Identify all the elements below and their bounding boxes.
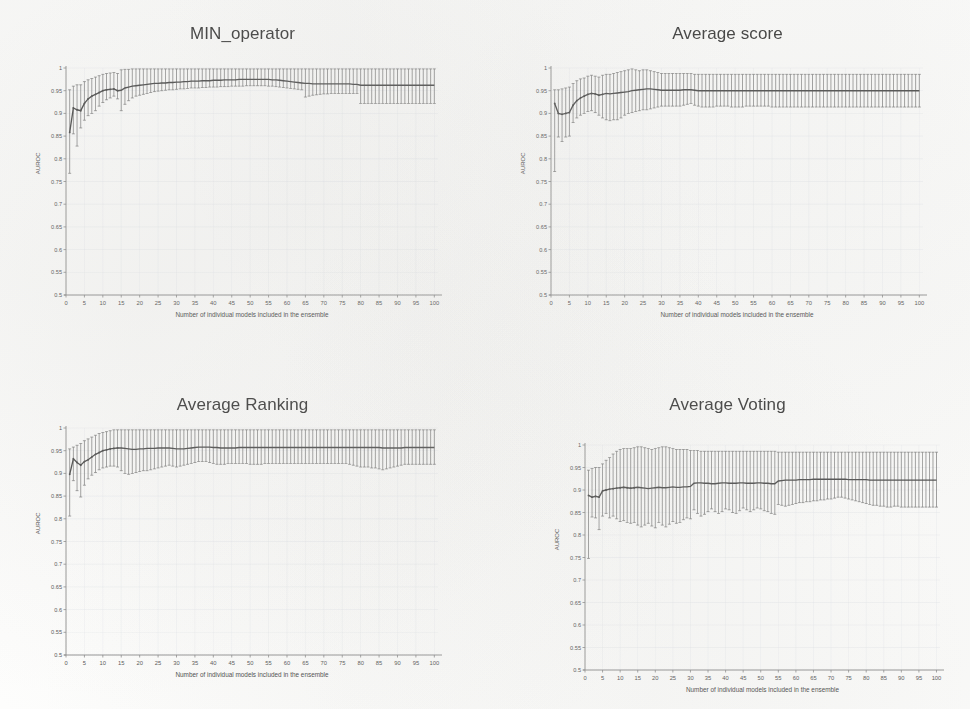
svg-text:25: 25 [670, 675, 676, 681]
svg-text:90: 90 [879, 300, 885, 306]
svg-text:15: 15 [118, 300, 124, 306]
svg-text:0.55: 0.55 [536, 269, 547, 275]
svg-text:85: 85 [881, 675, 887, 681]
svg-text:0.6: 0.6 [539, 247, 547, 253]
svg-text:100: 100 [914, 300, 924, 306]
svg-text:40: 40 [210, 300, 216, 306]
chart-panel-average_voting: Average Voting0.50.550.60.650.70.750.80.… [485, 355, 970, 709]
mean-markers [554, 93, 604, 116]
svg-text:45: 45 [229, 660, 235, 666]
svg-text:0.85: 0.85 [536, 133, 547, 139]
svg-text:5: 5 [568, 300, 571, 306]
svg-text:15: 15 [634, 675, 640, 681]
mean-line [70, 79, 435, 132]
chart-panel-min_operator: MIN_operator0.50.550.60.650.70.750.80.85… [0, 0, 485, 355]
svg-text:40: 40 [210, 660, 216, 666]
svg-text:85: 85 [376, 660, 382, 666]
svg-text:30: 30 [658, 300, 664, 306]
svg-text:0.8: 0.8 [539, 156, 547, 162]
y-axis-title: AUROC [520, 152, 526, 174]
svg-text:80: 80 [842, 300, 848, 306]
svg-text:55: 55 [750, 300, 756, 306]
svg-text:0.9: 0.9 [54, 470, 62, 476]
svg-text:0.95: 0.95 [570, 465, 581, 471]
svg-text:35: 35 [677, 300, 683, 306]
svg-text:5: 5 [601, 675, 604, 681]
svg-text:35: 35 [705, 675, 711, 681]
mean-line [70, 447, 435, 474]
error-bars [587, 447, 938, 559]
svg-text:30: 30 [173, 660, 179, 666]
svg-text:55: 55 [265, 660, 271, 666]
svg-text:10: 10 [585, 300, 591, 306]
svg-text:20: 20 [621, 300, 627, 306]
svg-text:100: 100 [429, 660, 439, 666]
x-tick-labels: 0510152025303540455055606570758085909510… [64, 655, 439, 666]
x-axis-title: Number of individual models included in … [175, 311, 329, 318]
svg-text:0.75: 0.75 [570, 555, 581, 561]
x-tick-labels: 0510152025303540455055606570758085909510… [583, 670, 941, 681]
svg-text:25: 25 [155, 300, 161, 306]
svg-text:1: 1 [544, 65, 547, 71]
svg-text:0.7: 0.7 [54, 201, 62, 207]
svg-text:85: 85 [376, 300, 382, 306]
mean-line [555, 89, 920, 114]
svg-text:80: 80 [863, 675, 869, 681]
error-bars [553, 69, 921, 172]
svg-text:0.95: 0.95 [536, 88, 547, 94]
y-axis-title: AUROC [554, 528, 560, 550]
grid-lines [585, 445, 940, 670]
svg-text:20: 20 [136, 300, 142, 306]
svg-text:0.6: 0.6 [54, 607, 62, 613]
svg-text:0.75: 0.75 [536, 179, 547, 185]
svg-text:1: 1 [59, 425, 62, 431]
svg-text:10: 10 [617, 675, 623, 681]
svg-text:0.85: 0.85 [570, 510, 581, 516]
svg-text:35: 35 [192, 660, 198, 666]
grid-lines [551, 68, 923, 295]
svg-text:0.95: 0.95 [51, 448, 62, 454]
svg-text:65: 65 [787, 300, 793, 306]
svg-text:0.65: 0.65 [51, 224, 62, 230]
svg-text:0.65: 0.65 [51, 584, 62, 590]
svg-text:0.7: 0.7 [573, 577, 581, 583]
svg-text:0.5: 0.5 [539, 292, 547, 298]
svg-text:0.7: 0.7 [539, 201, 547, 207]
svg-text:0.55: 0.55 [570, 645, 581, 651]
svg-text:0.65: 0.65 [570, 600, 581, 606]
svg-text:50: 50 [732, 300, 738, 306]
y-tick-labels: 0.50.550.60.650.70.750.80.850.90.951 [51, 425, 66, 658]
svg-text:0.8: 0.8 [54, 156, 62, 162]
svg-text:70: 70 [828, 675, 834, 681]
svg-text:0.5: 0.5 [54, 652, 62, 658]
y-tick-labels: 0.50.550.60.650.70.750.80.850.90.951 [51, 65, 66, 298]
svg-text:0.65: 0.65 [536, 224, 547, 230]
svg-text:90: 90 [394, 300, 400, 306]
plot-area-min_operator: 0.50.550.60.650.70.750.80.850.90.9510510… [0, 0, 485, 355]
svg-text:60: 60 [769, 300, 775, 306]
svg-text:20: 20 [136, 660, 142, 666]
svg-text:50: 50 [758, 675, 764, 681]
svg-text:0: 0 [64, 660, 67, 666]
svg-text:80: 80 [357, 660, 363, 666]
svg-text:50: 50 [247, 660, 253, 666]
x-tick-labels: 0510152025303540455055606570758085909510… [549, 295, 924, 306]
svg-text:0.85: 0.85 [51, 133, 62, 139]
svg-text:10: 10 [100, 660, 106, 666]
chart-panel-average_ranking: Average Ranking0.50.550.60.650.70.750.80… [0, 355, 485, 709]
svg-text:20: 20 [652, 675, 658, 681]
svg-text:5: 5 [83, 300, 86, 306]
svg-text:0.75: 0.75 [51, 179, 62, 185]
svg-text:95: 95 [916, 675, 922, 681]
svg-text:0.6: 0.6 [573, 622, 581, 628]
svg-text:40: 40 [722, 675, 728, 681]
chart-panel-average_score: Average score0.50.550.60.650.70.750.80.8… [485, 0, 970, 355]
svg-text:75: 75 [824, 300, 830, 306]
svg-text:100: 100 [429, 300, 439, 306]
svg-text:95: 95 [898, 300, 904, 306]
svg-text:10: 10 [100, 300, 106, 306]
x-axis-title: Number of individual models included in … [175, 671, 329, 678]
svg-text:35: 35 [192, 300, 198, 306]
svg-text:0: 0 [583, 675, 586, 681]
y-axis-title: AUROC [35, 512, 41, 534]
